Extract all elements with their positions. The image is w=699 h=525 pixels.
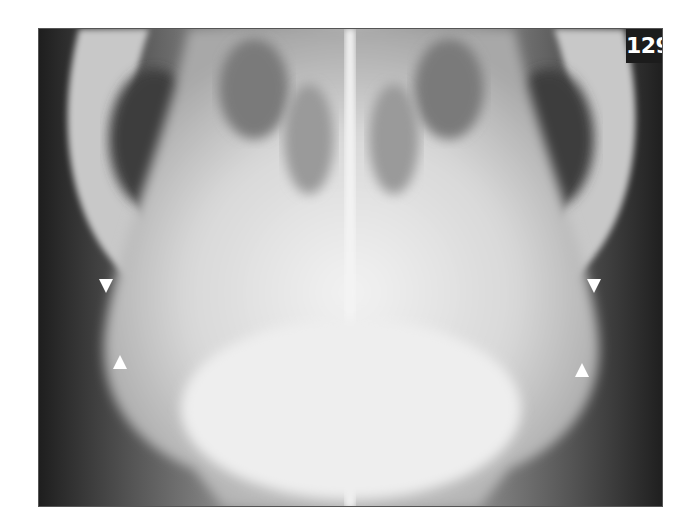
- arrowhead-right-lower: [575, 363, 589, 377]
- arrowhead-right-upper: [587, 279, 601, 293]
- radiograph-image: 129: [38, 28, 663, 507]
- arrowhead-left-upper: [99, 279, 113, 293]
- figure-number-label: 129: [626, 29, 662, 63]
- xray-illustration: [39, 29, 663, 507]
- arrowhead-left-lower: [113, 355, 127, 369]
